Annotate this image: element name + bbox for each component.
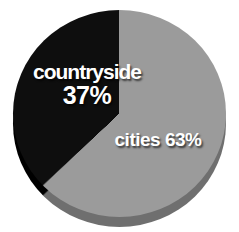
pie-disc — [13, 10, 226, 217]
countryside-label-text: countryside — [17, 60, 157, 83]
cities-slice-label: cities 63% — [98, 129, 218, 150]
countryside-slice-label: countryside 37% — [17, 60, 157, 108]
countryside-percent-text: 37% — [17, 83, 157, 108]
pie-chart: countryside 37% cities 63% — [0, 0, 239, 232]
